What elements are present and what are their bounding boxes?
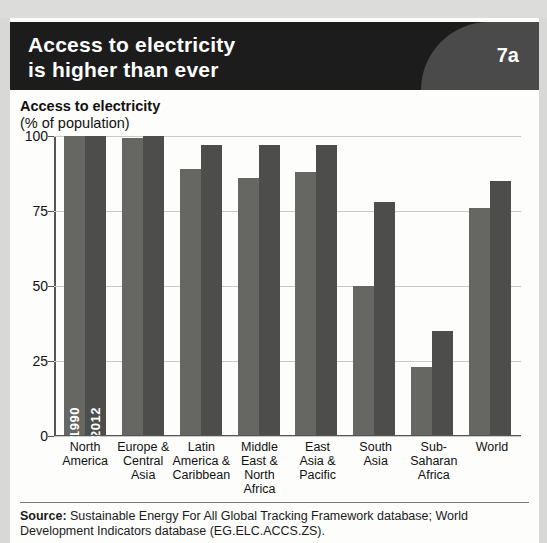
bar-group bbox=[345, 136, 403, 436]
x-axis-label: Latin America & Caribbean bbox=[172, 440, 230, 496]
y-axis-tick bbox=[48, 286, 54, 287]
scan-artifact-strip bbox=[0, 0, 547, 18]
y-axis-tick-label: 0 bbox=[20, 428, 48, 444]
bar-2012 bbox=[259, 145, 280, 436]
y-axis-tick-label: 75 bbox=[20, 203, 48, 219]
x-axis-label: Europe & Central Asia bbox=[114, 440, 172, 496]
x-axis-label: East Asia & Pacific bbox=[289, 440, 347, 496]
y-axis-tick-label: 25 bbox=[20, 353, 48, 369]
bar-1990 bbox=[353, 286, 374, 436]
source-divider bbox=[20, 502, 529, 503]
x-axis-line bbox=[54, 435, 521, 437]
bar-group bbox=[172, 136, 230, 436]
bar-series-layer: 19902012 bbox=[56, 136, 519, 436]
x-axis-label: Middle East & North Africa bbox=[230, 440, 288, 496]
x-axis-label: World bbox=[463, 440, 521, 496]
bar-2012 bbox=[201, 145, 222, 436]
figure-number-badge: 7a bbox=[497, 44, 519, 67]
bar-2012 bbox=[490, 181, 511, 436]
y-axis-tick bbox=[48, 211, 54, 212]
bar-2012: 2012 bbox=[85, 136, 106, 436]
bar-2012 bbox=[374, 202, 395, 436]
bar-group bbox=[403, 136, 461, 436]
figure-header-banner: Access to electricity is higher than eve… bbox=[10, 22, 539, 90]
gridline bbox=[54, 436, 521, 437]
bar-1990 bbox=[469, 208, 490, 436]
legend-label-1990: 1990 bbox=[67, 407, 82, 438]
bar-1990 bbox=[180, 169, 201, 436]
bar-group bbox=[230, 136, 288, 436]
bar-1990 bbox=[411, 367, 432, 436]
bar-group bbox=[461, 136, 519, 436]
y-axis-tick bbox=[48, 361, 54, 362]
bar-2012 bbox=[432, 331, 453, 436]
x-axis-label: Sub- Saharan Africa bbox=[405, 440, 463, 496]
y-axis-tick-label: 100 bbox=[20, 128, 48, 144]
figure-panel: Access to electricity is higher than eve… bbox=[10, 18, 539, 543]
bar-1990 bbox=[122, 138, 143, 437]
chart-block: Access to electricity (% of population) … bbox=[10, 90, 539, 496]
bar-2012 bbox=[143, 136, 164, 436]
plot-area: 0255075100 19902012 bbox=[54, 136, 521, 436]
y-axis-tick-label: 50 bbox=[20, 278, 48, 294]
source-text: Sustainable Energy For All Global Tracki… bbox=[20, 509, 468, 538]
bar-1990 bbox=[295, 172, 316, 436]
source-note: Source: Sustainable Energy For All Globa… bbox=[20, 509, 529, 539]
x-axis-label: North America bbox=[56, 440, 114, 496]
bar-group bbox=[114, 136, 172, 436]
bar-group bbox=[288, 136, 346, 436]
chart-title: Access to electricity bbox=[20, 98, 529, 115]
bar-1990 bbox=[238, 178, 259, 436]
banner-corner-wedge bbox=[421, 22, 539, 90]
x-axis-labels: North AmericaEurope & Central AsiaLatin … bbox=[56, 440, 521, 496]
y-axis-tick bbox=[48, 436, 54, 437]
y-axis-tick bbox=[48, 136, 54, 137]
bar-group: 19902012 bbox=[56, 136, 114, 436]
bar-2012 bbox=[316, 145, 337, 436]
legend-label-2012: 2012 bbox=[88, 407, 103, 438]
chart-subtitle: (% of population) bbox=[20, 115, 529, 132]
source-label: Source: bbox=[20, 509, 67, 523]
x-axis-label: South Asia bbox=[347, 440, 405, 496]
bar-1990: 1990 bbox=[64, 136, 85, 436]
banner-title: Access to electricity is higher than eve… bbox=[28, 32, 235, 82]
